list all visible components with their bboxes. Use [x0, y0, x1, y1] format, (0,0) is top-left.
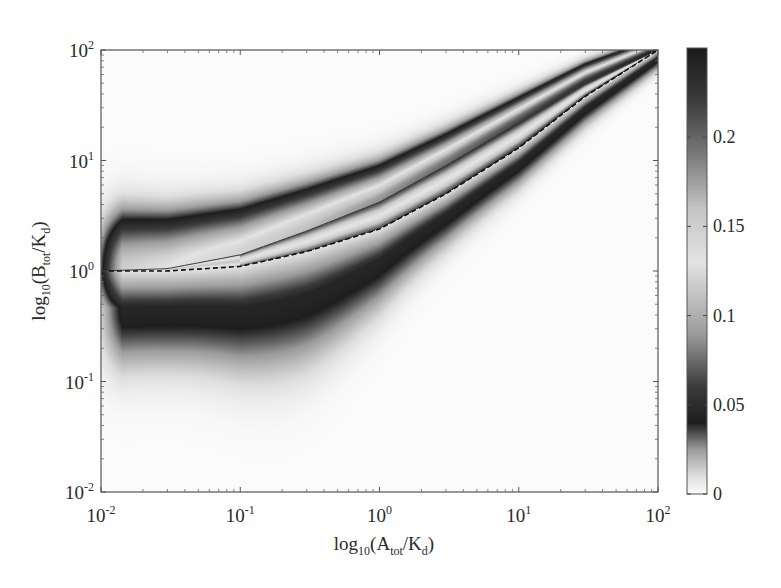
y-tick-label: 101	[69, 149, 94, 172]
x-axis-label: log10(Atot/Kd)	[334, 533, 434, 558]
x-tick-label: 10-2	[87, 503, 116, 526]
y-tick-label: 100	[69, 259, 94, 282]
colorbar-tick-label: 0	[713, 484, 722, 504]
y-axis-label: log10(Btot/Kd)	[28, 221, 53, 320]
heatmap-image	[101, 50, 658, 492]
y-tick-label: 102	[69, 38, 94, 61]
x-tick-label: 100	[367, 503, 392, 526]
colorbar-tick-label: 0.2	[713, 127, 736, 147]
colorbar-tick-label: 0.15	[713, 216, 745, 236]
x-tick-label: 101	[506, 503, 531, 526]
y-tick-label: 10-1	[65, 370, 94, 393]
y-tick-label: 10-2	[65, 480, 94, 503]
x-tick-label: 10-1	[226, 503, 255, 526]
colorbar-tick-label: 0.05	[713, 395, 745, 415]
figure: 10-210-1100101102 10-210-1100101102 log1…	[0, 0, 781, 588]
colorbar-gradient	[687, 48, 707, 494]
colorbar-tick-label: 0.1	[713, 306, 736, 326]
colorbar: 00.050.10.150.2	[687, 48, 745, 504]
x-tick-label: 102	[646, 503, 671, 526]
heatmap	[101, 50, 658, 492]
